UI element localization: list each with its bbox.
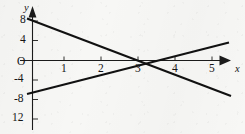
- y-tick-label-4: 4: [20, 34, 26, 46]
- y-tick-label-8: 8: [20, 14, 26, 26]
- x-axis: [20, 56, 231, 66]
- y-tick-label-neg-8: -8: [14, 93, 24, 105]
- y-tick-label-neg-12: 12: [12, 112, 24, 124]
- y-tick-label-neg-4: -4: [14, 73, 24, 85]
- y-tick-marks: [33, 21, 39, 119]
- y-axis: [29, 6, 37, 130]
- origin-label: O: [17, 56, 25, 68]
- ascending-line: [27, 43, 229, 95]
- x-axis-arrowhead: [220, 56, 232, 66]
- x-tick-label-2: 2: [98, 63, 104, 75]
- y-axis-label: y: [24, 3, 29, 14]
- x-axis-label: x: [235, 64, 240, 75]
- descending-line: [27, 19, 231, 97]
- graph-figure: y x O 8 4 -4 -8 12 1 2 3 4 5: [0, 0, 245, 134]
- x-tick-label-3: 3: [135, 63, 141, 75]
- x-tick-label-4: 4: [172, 63, 178, 75]
- y-axis-arrowhead: [29, 6, 37, 18]
- x-tick-label-5: 5: [209, 63, 215, 75]
- x-tick-label-1: 1: [61, 63, 67, 75]
